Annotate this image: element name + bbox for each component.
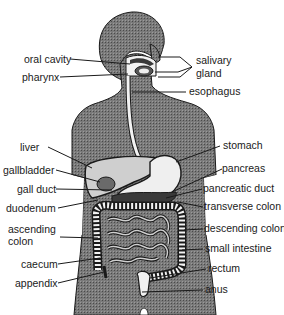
label-ascending-colon-line2: colon	[8, 235, 33, 247]
label-transverse-colon: transverse colon	[204, 200, 281, 212]
label-pharynx: pharynx	[22, 71, 60, 83]
label-pancreatic-duct: pancreatic duct	[203, 182, 274, 194]
label-salivary-gland-line2: gland	[196, 67, 222, 79]
salivary-gland-callout	[155, 57, 192, 77]
oral-cavity-shape	[126, 55, 156, 76]
label-appendix: appendix	[15, 277, 58, 289]
label-salivary-gland-line1: salivary	[196, 54, 232, 66]
label-pancreas: pancreas	[222, 162, 265, 174]
labels-left: oral cavity pharynx liver gallbladder ga…	[3, 53, 72, 289]
label-small-intestine: small intestine	[205, 242, 272, 254]
label-stomach: stomach	[223, 139, 263, 151]
label-descending-colon: descending colon	[204, 222, 284, 234]
label-gallbladder: gallbladder	[3, 164, 55, 176]
label-gall-duct: gall duct	[17, 183, 56, 195]
label-duodenum: duodenum	[6, 202, 56, 214]
label-liver: liver	[20, 141, 40, 153]
digestive-system-diagram: oral cavity pharynx liver gallbladder ga…	[0, 0, 284, 315]
label-caecum: caecum	[21, 258, 58, 270]
label-anus: anus	[205, 283, 228, 295]
label-oral-cavity: oral cavity	[24, 53, 72, 65]
label-rectum: rectum	[208, 262, 240, 274]
label-ascending-colon-line1: ascending	[8, 223, 56, 235]
label-esophagus: esophagus	[189, 85, 240, 97]
gallbladder-shape	[97, 177, 115, 191]
appendix-shape	[104, 266, 106, 278]
